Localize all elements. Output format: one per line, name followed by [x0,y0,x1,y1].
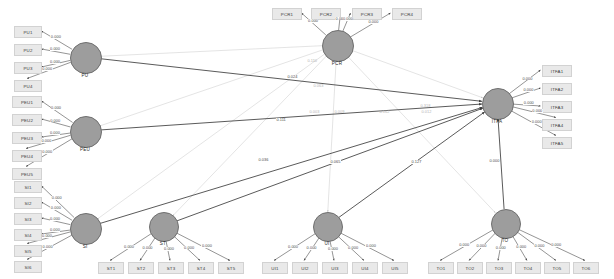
loading-label-TO-6: 0.000 [551,243,562,247]
loading-label-PEU-4: 0.000 [41,139,52,143]
latent-node-ST[interactable] [149,212,179,242]
moderation-label-PCR-ST: 0.009 [334,110,345,114]
indicator-SI6[interactable]: SI6 [14,261,42,273]
latent-label-PEU: PEU [65,147,105,152]
indicator-ITFA4[interactable]: ITFA4 [542,119,572,131]
indicator-PU1[interactable]: PU1 [14,26,42,38]
moderation-edges [97,46,495,219]
loading-label-PCR-3: 0.000 [343,17,354,21]
moderation-label-PCR-SI: 0.003 [309,110,320,114]
loading-label-UI-5: 0.000 [365,244,376,248]
indicator-SI4[interactable]: SI4 [14,229,42,241]
loading-label-ST-2: 0.000 [142,246,153,250]
loading-label-TO-3: 0.000 [495,246,506,250]
latent-node-TO[interactable] [491,209,521,239]
latent-label-SI: SI [65,244,105,249]
latent-node-PU[interactable] [70,42,102,74]
loading-label-PU-1: 0.000 [50,35,61,39]
loading-label-TO-5: 0.000 [534,244,545,248]
loading-label-ITFA-2: 0.000 [523,88,534,92]
structural-model-edges [99,50,504,224]
indicator-PEU5[interactable]: PEU5 [12,168,42,180]
indicator-TO5[interactable]: TO5 [544,262,570,274]
indicator-UI3[interactable]: UI3 [322,262,348,274]
path-label-ST-ITFA: 0.065 [330,160,341,164]
loading-label-PEU-3: 0.000 [50,131,61,135]
indicator-SI2[interactable]: SI2 [14,197,42,209]
loading-label-PEU-5: 0.000 [42,150,53,154]
loading-label-ST-4: 0.000 [184,246,195,250]
loading-label-TO-1: 0.000 [459,243,470,247]
latent-label-PCR: PCR [317,61,357,66]
indicator-ST1[interactable]: ST1 [98,262,124,274]
latent-label-ITFA: ITFA [477,119,517,124]
path-label-PU-ITFA: 0.024 [287,75,298,79]
indicator-ITFA2[interactable]: ITFA2 [542,83,572,95]
indicator-PU2[interactable]: PU2 [14,44,42,56]
indicator-SI5[interactable]: SI5 [14,245,42,257]
latent-node-PEU[interactable] [70,116,102,148]
indicator-UI4[interactable]: UI4 [352,262,378,274]
indicator-PEU3[interactable]: PEU3 [12,132,42,144]
loading-label-PCR-4: 0.000 [368,20,379,24]
latent-label-TO: TO [485,238,525,243]
path-label-SI-ITFA: 0.036 [258,158,269,162]
moderation-label-PCR-UI: 0.162 [379,110,390,114]
indicator-PEU4[interactable]: PEU4 [12,150,42,162]
loading-label-UI-2: 0.000 [306,246,317,250]
indicator-ST3[interactable]: ST3 [158,262,184,274]
path-label-PEU-ITFA: 0.111 [276,118,286,122]
path-label-UI-ITFA: 0.127 [411,160,422,164]
latent-node-SI[interactable] [70,213,102,245]
indicator-ITFA3[interactable]: ITFA3 [542,101,572,113]
moderation-label-PCR-PEU: 0.063 [313,84,324,88]
indicator-PU4[interactable]: PU4 [14,80,42,92]
loading-label-ST-3: 0.000 [164,247,175,251]
loading-label-ITFA-1: 0.000 [522,77,533,81]
indicator-PEU2[interactable]: PEU2 [12,114,42,126]
indicator-TO1[interactable]: TO1 [428,262,454,274]
indicator-SI3[interactable]: SI3 [14,213,42,225]
loading-label-SI-2: 0.000 [50,206,61,210]
loading-label-SI-3: 0.000 [50,217,61,221]
indicator-PEU1[interactable]: PEU1 [12,96,42,108]
loading-label-SI-5: 0.000 [42,234,53,238]
loading-label-UI-1: 0.000 [288,245,299,249]
latent-node-ITFA[interactable] [482,88,514,120]
indicator-TO2[interactable]: TO2 [457,262,483,274]
indicator-ST5[interactable]: ST5 [218,262,244,274]
indicator-SI1[interactable]: SI1 [14,181,42,193]
latent-label-PU: PU [65,73,105,78]
loading-label-TO-2: 0.000 [476,244,487,248]
indicator-UI2[interactable]: UI2 [292,262,318,274]
indicator-ST2[interactable]: ST2 [128,262,154,274]
indicator-ST4[interactable]: ST4 [188,262,214,274]
path-label-PCR-ITFA: 0.318 [420,104,431,108]
path-label-TO-ITFA: 0.000 [489,159,500,163]
loading-label-PEU-1: 0.000 [51,106,62,110]
indicator-TO4[interactable]: TO4 [515,262,541,274]
indicator-PCR1[interactable]: PCR1 [272,8,302,20]
indicator-ITFA5[interactable]: ITFA5 [542,137,572,149]
loading-label-TO-4: 0.000 [516,245,527,249]
loading-label-PEU-2: 0.000 [50,119,61,123]
loading-label-PU-3: 0.000 [50,60,61,64]
loading-label-SI-6: 0.000 [42,245,53,249]
latent-node-UI[interactable] [313,212,343,242]
indicator-PCR4[interactable]: PCR4 [392,8,422,20]
indicator-ITFA1[interactable]: ITFA1 [542,65,572,77]
indicator-TO3[interactable]: TO3 [486,262,512,274]
indicator-TO6[interactable]: TO6 [573,262,599,274]
indicator-UI1[interactable]: UI1 [262,262,288,274]
indicator-UI5[interactable]: UI5 [382,262,408,274]
loading-label-PCR-1: 0.000 [308,19,319,23]
latent-node-PCR[interactable] [322,30,354,62]
loading-label-ITFA-4: 0.000 [532,109,543,113]
indicator-PU3[interactable]: PU3 [14,62,42,74]
loading-label-SI-4: 0.000 [50,228,61,232]
loading-label-ITFA-5: 0.000 [531,120,542,124]
loading-label-UI-4: 0.000 [348,246,359,250]
loading-label-ITFA-3: 0.000 [523,101,534,105]
loading-label-ST-5: 0.000 [201,244,212,248]
moderation-label-PCR-PU: 0.110 [307,59,317,63]
